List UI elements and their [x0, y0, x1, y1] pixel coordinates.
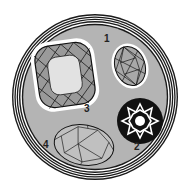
- label-gem-3: 3: [84, 103, 90, 114]
- gem-3-cushion-cut: [28, 36, 101, 114]
- label-gem-4: 4: [43, 139, 49, 150]
- label-gem-1: 1: [104, 33, 110, 44]
- medallion-svg: 1 2 3 4: [0, 0, 190, 194]
- gem-2-round-brilliant: [117, 98, 163, 144]
- gem-medallion-illustration: 1 2 3 4: [0, 0, 190, 194]
- label-gem-2: 2: [134, 141, 140, 152]
